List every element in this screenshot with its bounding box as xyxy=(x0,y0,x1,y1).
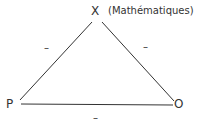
edge-p-x xyxy=(20,22,92,100)
edge-p-o-sign: – xyxy=(93,113,98,123)
edge-p-x-sign: – xyxy=(44,43,49,53)
edge-x-o xyxy=(102,22,174,101)
edge-x-o-sign: – xyxy=(143,42,148,52)
vertex-x-note: (Mathématiques) xyxy=(108,6,194,16)
vertex-x-label: X xyxy=(91,5,99,17)
vertex-p-label: P xyxy=(6,98,13,110)
triangle-lines xyxy=(0,0,203,127)
triangle-diagram: X (Mathématiques) P O – – – xyxy=(0,0,203,127)
edge-p-o xyxy=(21,104,173,105)
vertex-o-label: O xyxy=(174,98,183,110)
